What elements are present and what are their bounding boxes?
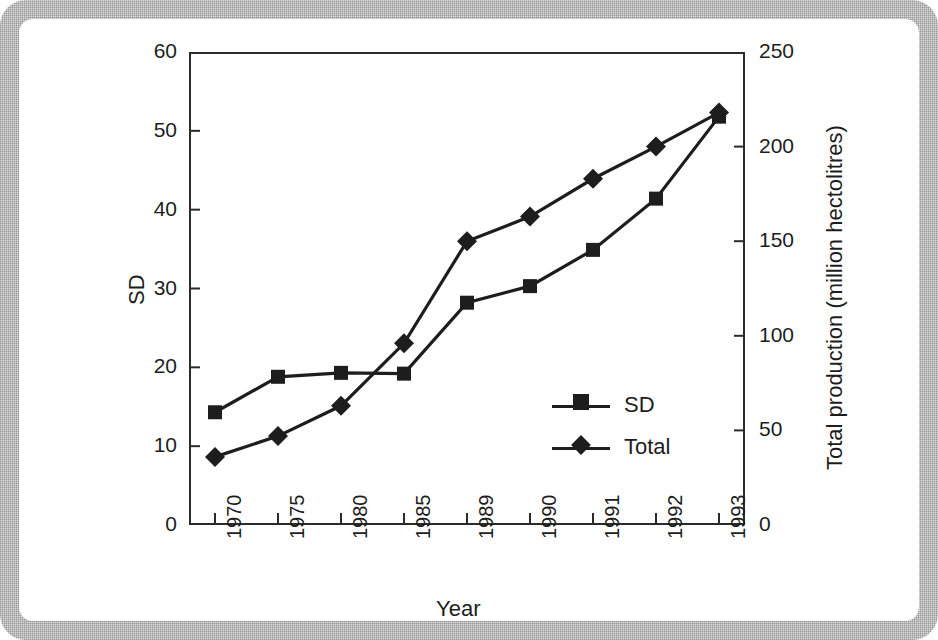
x-tick-label: 1992 — [664, 495, 687, 540]
chart-legend: SD Total — [552, 385, 722, 469]
left-tick-label: 40 — [123, 197, 177, 221]
left-tick-label: 60 — [123, 39, 177, 63]
x-tick-label: 1985 — [412, 495, 435, 540]
x-tick-label: 1975 — [286, 495, 309, 540]
series-sd — [208, 110, 726, 420]
right-axis-title: Total production (million hectolitres) — [822, 125, 848, 470]
x-tick-label: 1989 — [475, 495, 498, 540]
x-tick-label: 1993 — [727, 495, 750, 540]
data-point-marker — [457, 231, 477, 251]
right-tick-label: 250 — [759, 39, 794, 63]
left-tick-label: 0 — [123, 512, 177, 536]
data-point-marker — [523, 279, 537, 293]
data-point-marker — [205, 447, 225, 467]
left-axis-title: SD — [124, 274, 150, 305]
legend-label-total: Total — [624, 434, 670, 460]
x-tick-label: 1980 — [349, 495, 372, 540]
chart-figure: 0102030405060 050100150200250 1970197519… — [0, 0, 938, 640]
x-tick-label: 1991 — [601, 495, 624, 540]
data-point-marker — [586, 243, 600, 257]
data-point-marker — [208, 405, 222, 419]
data-point-marker — [520, 207, 540, 227]
data-point-marker — [460, 296, 474, 310]
x-axis-title: Year — [436, 596, 480, 622]
data-point-marker — [649, 192, 663, 206]
data-point-marker — [334, 366, 348, 380]
right-tick-label: 150 — [759, 228, 794, 252]
square-marker-icon — [573, 394, 589, 410]
data-point-marker — [583, 169, 603, 189]
left-tick-label: 50 — [123, 118, 177, 142]
right-tick-label: 0 — [759, 512, 771, 536]
x-tick-label: 1990 — [538, 495, 561, 540]
data-point-marker — [268, 426, 288, 446]
series-line-sd — [215, 117, 719, 413]
left-tick-label: 20 — [123, 354, 177, 378]
x-tick-label: 1970 — [223, 495, 246, 540]
data-point-marker — [271, 370, 285, 384]
legend-item-sd[interactable]: SD — [552, 385, 722, 427]
right-tick-label: 100 — [759, 323, 794, 347]
data-point-marker — [646, 137, 666, 157]
right-tick-label: 200 — [759, 134, 794, 158]
data-point-marker — [397, 367, 411, 381]
left-tick-label: 10 — [123, 433, 177, 457]
legend-item-total[interactable]: Total — [552, 427, 722, 469]
right-tick-label: 50 — [759, 417, 782, 441]
chart-svg — [0, 0, 938, 640]
diamond-marker-icon — [571, 435, 591, 455]
legend-label-sd: SD — [624, 392, 655, 418]
